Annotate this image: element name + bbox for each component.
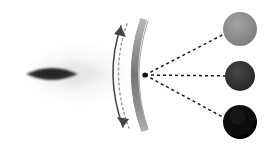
- diagram-canvas: [0, 0, 266, 149]
- spot-middle: [225, 61, 255, 91]
- spot-bottom: [223, 105, 257, 139]
- detector-spots-group: [223, 12, 257, 139]
- optical-scanning-diagram: [0, 0, 266, 149]
- ray-middle: [145, 75, 232, 76]
- focal-point-marker: [142, 72, 147, 77]
- spot-top: [223, 12, 257, 46]
